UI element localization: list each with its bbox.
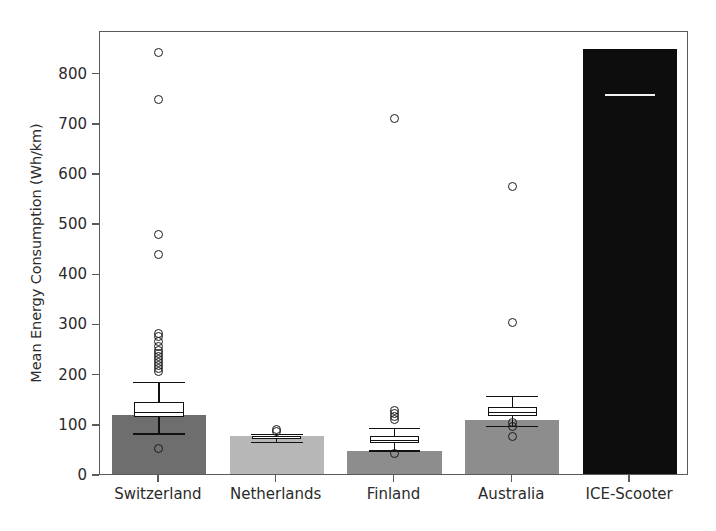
x-tick-mark xyxy=(393,475,394,482)
y-tick-label: 600 xyxy=(58,163,87,185)
y-tick-mark xyxy=(92,223,99,224)
y-tick-label: 100 xyxy=(58,414,87,436)
plot-area xyxy=(99,31,688,475)
y-tick-mark xyxy=(92,374,99,375)
y-tick-label: 700 xyxy=(58,113,87,135)
y-tick-mark xyxy=(92,274,99,275)
x-tick-mark xyxy=(275,475,276,482)
y-tick-mark xyxy=(92,424,99,425)
y-tick-label: 300 xyxy=(58,313,87,335)
y-tick-mark xyxy=(92,173,99,174)
y-tick-mark xyxy=(92,123,99,124)
y-tick-label: 200 xyxy=(58,364,87,386)
y-tick-label: 400 xyxy=(58,263,87,285)
x-tick-label: ICE-Scooter xyxy=(549,485,709,503)
y-tick-mark xyxy=(92,324,99,325)
y-tick-label: 800 xyxy=(58,63,87,85)
y-tick-label: 0 xyxy=(77,464,87,486)
y-tick-mark xyxy=(92,73,99,74)
y-tick-mark xyxy=(92,474,99,475)
y-tick-label: 500 xyxy=(58,213,87,235)
median-line xyxy=(605,94,654,96)
x-tick-mark xyxy=(511,475,512,482)
figure-canvas: Mean Energy Consumption (Wh/km) 01002003… xyxy=(0,0,716,531)
x-tick-mark xyxy=(157,475,158,482)
boxplot-ice-scooter xyxy=(100,32,687,474)
y-axis-title: Mean Energy Consumption (Wh/km) xyxy=(24,31,48,475)
x-tick-mark xyxy=(628,475,629,482)
